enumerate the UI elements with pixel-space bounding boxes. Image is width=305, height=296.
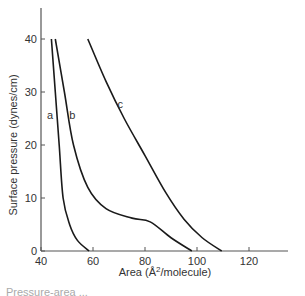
y-tick-label: 0 <box>31 245 37 257</box>
axes: 406080100120010203040 <box>25 8 288 267</box>
caption-text: Pressure-area ... <box>6 286 88 296</box>
curve-label-a: a <box>47 109 54 121</box>
curve-c <box>88 39 222 251</box>
curve-label-c: c <box>118 98 124 110</box>
y-tick-label: 20 <box>25 139 37 151</box>
x-tick-label: 60 <box>87 255 99 267</box>
y-tick-label: 30 <box>25 86 37 98</box>
curve-label-b: b <box>69 109 75 121</box>
pressure-area-chart: 406080100120010203040 abc Area (Å2/molec… <box>0 0 305 296</box>
y-axis-label: Surface pressure (dynes/cm) <box>7 74 19 215</box>
x-tick-label: 120 <box>240 255 258 267</box>
y-tick-label: 10 <box>25 192 37 204</box>
curve-a <box>51 39 89 251</box>
curve-b <box>55 39 192 251</box>
y-tick-label: 40 <box>25 33 37 45</box>
x-axis-label: Area (Å2/molecule) <box>119 265 212 278</box>
series-group: abc <box>47 39 222 251</box>
